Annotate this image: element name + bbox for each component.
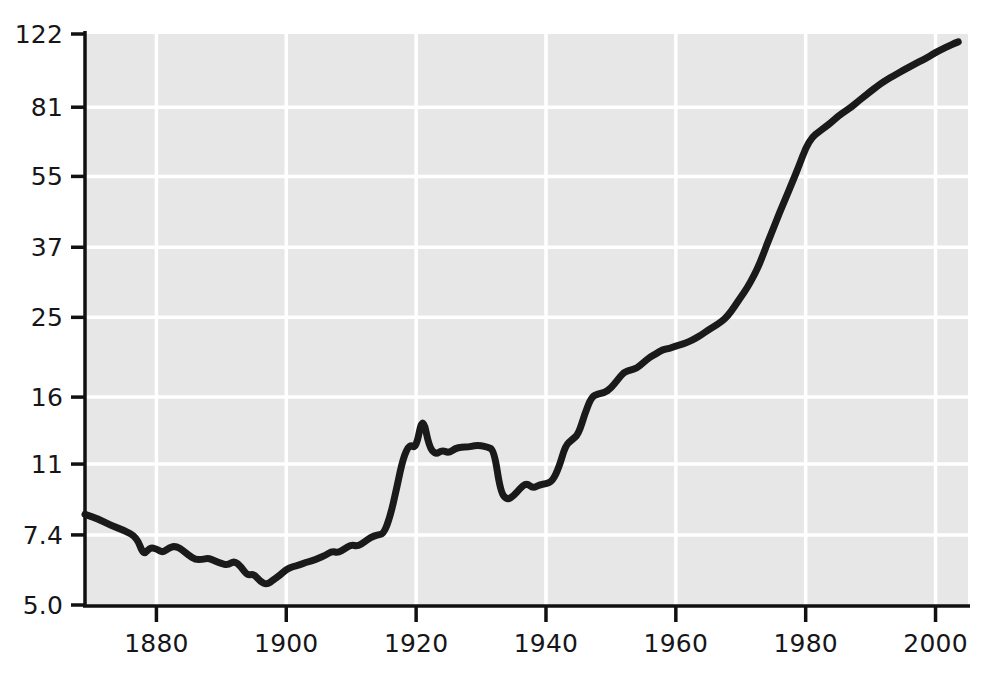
x-tick-label: 1900 xyxy=(254,629,318,658)
y-tick-label: 25 xyxy=(31,303,63,332)
y-tick-label: 5.0 xyxy=(23,591,63,620)
chart-container: 5.07.4111625375581122 188019001920194019… xyxy=(0,0,994,676)
y-tick-label: 122 xyxy=(15,20,63,49)
x-tick-label: 1880 xyxy=(124,629,188,658)
x-tick-label: 1960 xyxy=(644,629,708,658)
x-tick-label: 1940 xyxy=(514,629,578,658)
y-tick-label: 7.4 xyxy=(23,521,63,550)
x-tick-label: 2000 xyxy=(903,629,967,658)
y-tick-label: 37 xyxy=(31,233,63,262)
x-tick-label: 1980 xyxy=(773,629,837,658)
y-axis-ticks xyxy=(71,34,85,605)
line-chart: 5.07.4111625375581122 188019001920194019… xyxy=(0,0,994,676)
y-tick-label: 55 xyxy=(31,162,63,191)
x-axis-tick-labels: 1880190019201940196019802000 xyxy=(124,629,968,658)
y-tick-label: 81 xyxy=(31,93,63,122)
x-tick-label: 1920 xyxy=(384,629,448,658)
y-tick-label: 16 xyxy=(31,383,63,412)
y-axis-tick-labels: 5.07.4111625375581122 xyxy=(15,20,63,620)
x-axis-ticks xyxy=(156,606,935,622)
y-tick-label: 11 xyxy=(31,450,63,479)
